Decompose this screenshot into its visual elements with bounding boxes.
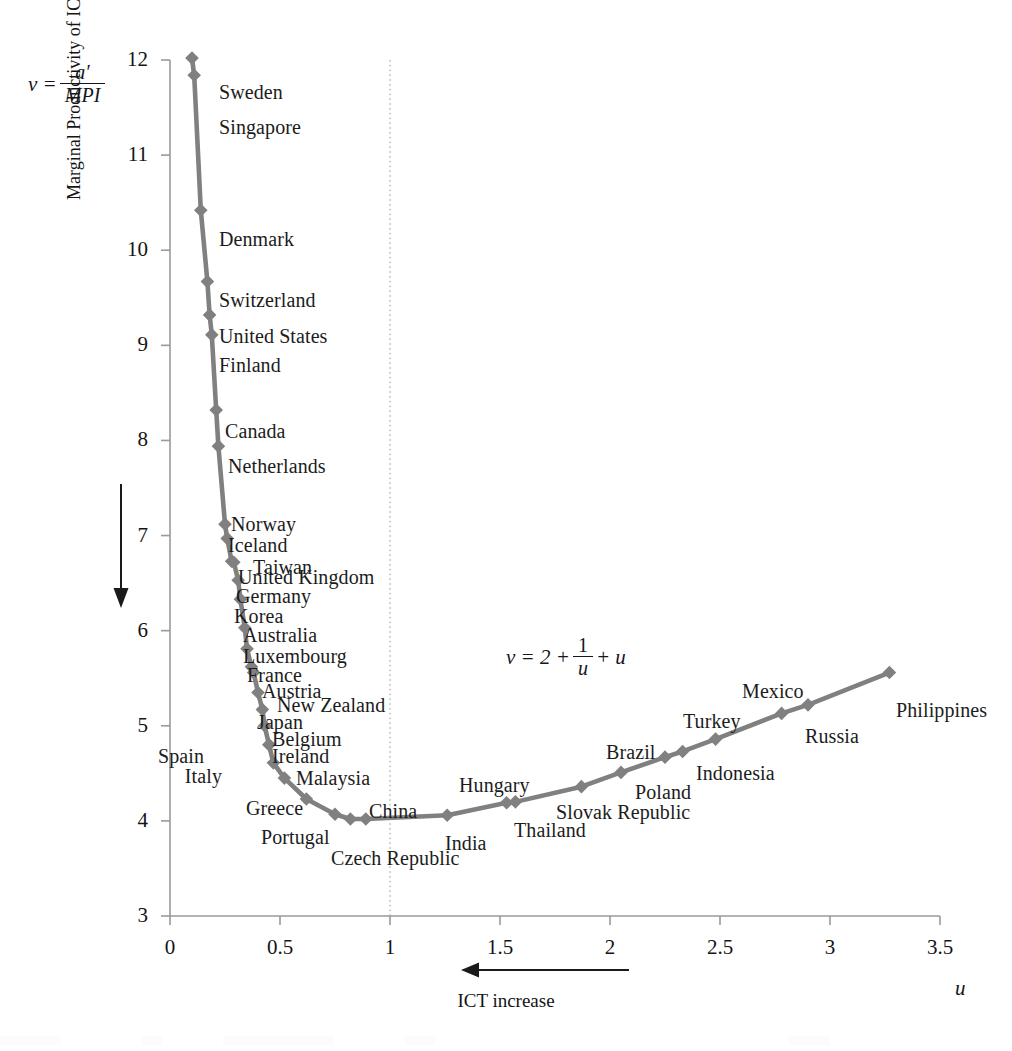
data-point-label: Indonesia	[696, 763, 775, 783]
data-point-label: Switzerland	[219, 290, 316, 310]
axis-lines	[170, 60, 940, 916]
data-point-label: Brazil	[606, 742, 655, 762]
formula-fraction: a′MPI	[60, 62, 106, 107]
x-tick-label: 3.5	[910, 935, 970, 960]
data-point-marker	[205, 328, 219, 342]
y-tick-label: 10	[112, 237, 148, 262]
x-tick-marks	[170, 916, 940, 925]
curve-formula-denominator: u	[573, 656, 593, 680]
x-tick-label: 0.5	[250, 935, 310, 960]
data-point-marker	[194, 203, 208, 217]
curve-formula-tail: + u	[596, 645, 626, 669]
y-axis-definition-formula: v =a′MPI	[28, 62, 108, 107]
data-point-marker	[212, 439, 226, 453]
data-point-label: United States	[219, 326, 328, 346]
data-point-label: Denmark	[219, 229, 294, 249]
data-point-label: Thailand	[514, 820, 586, 840]
data-point-label: Luxembourg	[243, 646, 347, 666]
y-tick-label: 3	[112, 903, 148, 928]
data-point-label: Italy	[185, 766, 222, 786]
data-point-label: Philippines	[896, 700, 987, 720]
data-point-label: Hungary	[459, 775, 530, 795]
curve-formula-numerator: 1	[573, 635, 593, 656]
data-point-marker	[614, 766, 628, 780]
data-point-label: Malaysia	[296, 768, 370, 788]
data-point-label: India	[445, 833, 487, 853]
data-point-label: Greece	[246, 798, 303, 818]
data-point-label: Australia	[243, 625, 317, 645]
data-point-marker	[344, 812, 358, 826]
data-point-label: Korea	[234, 606, 283, 626]
curve-formula-fraction: 1u	[573, 635, 593, 680]
y-tick-label: 11	[112, 142, 148, 167]
data-point-label: Norway	[231, 514, 296, 534]
formula-denominator: MPI	[60, 83, 106, 107]
y-tick-label: 12	[112, 47, 148, 72]
data-point-marker	[709, 732, 723, 746]
chart-plot-area	[0, 0, 1012, 1051]
y-tick-label: 4	[112, 808, 148, 833]
data-point-marker	[218, 517, 232, 531]
x-tick-label: 1.5	[470, 935, 530, 960]
x-tick-label: 1	[360, 935, 420, 960]
y-tick-label: 6	[112, 618, 148, 643]
data-point-marker	[203, 308, 217, 322]
data-point-marker	[185, 51, 199, 65]
data-point-marker	[187, 68, 201, 82]
data-point-label: Canada	[225, 421, 286, 441]
data-point-label: Singapore	[219, 117, 301, 137]
curve-formula-lhs: v = 2 +	[506, 645, 570, 669]
y-tick-label: 9	[112, 332, 148, 357]
data-point-label: Iceland	[228, 535, 288, 555]
x-tick-label: 2.5	[690, 935, 750, 960]
data-point-label: Portugal	[261, 827, 330, 847]
x-tick-label: 2	[580, 935, 640, 960]
page-artifact	[0, 1036, 1012, 1045]
data-point-marker	[201, 275, 215, 289]
y-tick-marks	[161, 60, 170, 916]
figure-container: 3456789101112 00.511.522.533.5 SwedenSin…	[0, 0, 1012, 1051]
x-tick-label: 0	[140, 935, 200, 960]
formula-numerator: a′	[60, 62, 106, 83]
data-point-label: Ireland	[272, 746, 329, 766]
data-point-label: Spain	[158, 746, 204, 766]
data-point-marker	[883, 666, 897, 680]
data-point-label: Poland	[635, 782, 691, 802]
data-point-label: Germany	[236, 586, 311, 606]
data-point-marker	[440, 808, 454, 822]
data-point-label: Mexico	[742, 681, 804, 701]
y-tick-label: 8	[112, 427, 148, 452]
x-axis-variable: u	[955, 976, 966, 1001]
data-point-marker	[209, 403, 223, 417]
data-point-marker	[658, 750, 672, 764]
data-point-label: Turkey	[683, 711, 741, 731]
mpi-decrease-arrow-icon	[108, 484, 134, 610]
data-point-label: Finland	[219, 355, 281, 375]
formula-lhs: v =	[28, 72, 57, 96]
x-tick-label: 3	[800, 935, 860, 960]
data-point-marker	[775, 707, 789, 721]
data-point-label: China	[369, 801, 417, 821]
ict-increase-arrow-icon	[461, 960, 631, 980]
y-tick-label: 5	[112, 713, 148, 738]
x-axis-caption: ICT increase	[0, 990, 1012, 1012]
data-point-marker	[575, 780, 589, 794]
data-point-label: Slovak Republic	[556, 802, 690, 822]
data-point-label: Czech Republic	[331, 848, 460, 868]
data-point-marker	[509, 795, 523, 809]
data-point-label: United Kingdom	[238, 567, 374, 587]
data-point-label: Russia	[805, 726, 859, 746]
data-point-label: Sweden	[219, 82, 283, 102]
data-point-label: Netherlands	[228, 456, 326, 476]
data-point-marker	[676, 745, 690, 759]
curve-equation-formula: v = 2 +1u+ u	[506, 635, 626, 680]
